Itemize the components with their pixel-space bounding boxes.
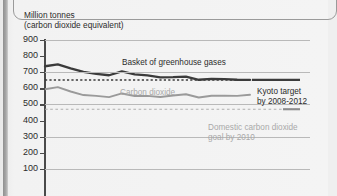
- y-axis-tick-800: [40, 56, 45, 57]
- y-axis-tick-200: [40, 153, 45, 154]
- annotation-basket-of-greenhouse-gases: Basket of greenhouse gases: [122, 58, 226, 68]
- domestic-label-line2: goal by 2010: [208, 133, 298, 143]
- y-axis-tick-600: [40, 88, 45, 89]
- annotation-carbon-dioxide: Carbon dioxide: [120, 88, 175, 98]
- gridline-major-900: [45, 40, 310, 41]
- annotation-domestic-goal: Domestic carbon dioxide goal by 2010: [208, 123, 298, 142]
- domestic-label-line1: Domestic carbon dioxide: [208, 123, 298, 133]
- kyoto-label-line2: by 2008-2012: [257, 97, 307, 107]
- gridline-major-700: [45, 72, 310, 73]
- annotation-kyoto-target: Kyoto target by 2008-2012: [257, 87, 307, 106]
- gridline-100: [45, 169, 310, 170]
- y-axis-tick-400: [40, 121, 45, 122]
- kyoto-label-line1: Kyoto target: [257, 87, 307, 97]
